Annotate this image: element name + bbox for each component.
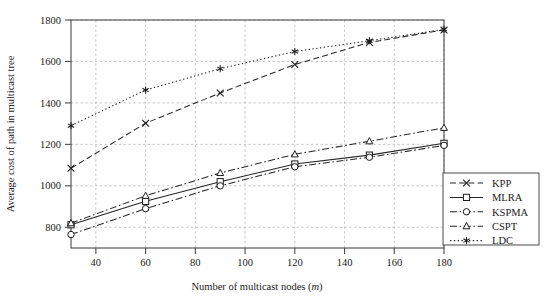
legend-label-ldc: LDC xyxy=(492,235,513,246)
y-axis-ticks xyxy=(65,20,71,227)
data-point-kspma-150 xyxy=(366,154,372,160)
data-point-kspma-60 xyxy=(142,205,148,211)
legend-marker-kspma xyxy=(463,209,469,215)
y-axis-title: Average cost of path in multicast tree xyxy=(5,55,16,212)
x-tick-label: 80 xyxy=(190,257,201,268)
legend-label-mlra: MLRA xyxy=(492,192,523,203)
x-tick-label: 180 xyxy=(436,257,452,268)
x-axis-title-paren: ) xyxy=(319,281,323,293)
x-tick-label: 160 xyxy=(386,257,402,268)
data-point-mlra-60 xyxy=(143,198,149,204)
y-axis-tick-labels: 80010001200140016001800 xyxy=(40,15,61,233)
x-tick-label: 140 xyxy=(337,257,353,268)
legend-label-kpp: KPP xyxy=(492,178,511,189)
y-tick-label: 1600 xyxy=(40,56,61,67)
data-point-kspma-90 xyxy=(217,183,223,189)
chart-page: 406080100120140160180 800100012001400160… xyxy=(0,0,545,301)
x-tick-label: 100 xyxy=(237,257,253,268)
legend-label-kspma: KSPMA xyxy=(492,207,529,218)
x-axis-ticks xyxy=(96,248,444,254)
legend-label-cspt: CSPT xyxy=(492,221,518,232)
x-tick-label: 60 xyxy=(140,257,151,268)
y-tick-label: 1000 xyxy=(40,180,61,191)
legend-marker-mlra xyxy=(463,194,469,200)
x-tick-label: 120 xyxy=(287,257,303,268)
y-tick-label: 1200 xyxy=(40,139,61,150)
data-point-kspma-120 xyxy=(292,164,298,170)
legend: KPPMLRAKSPMACSPTLDC xyxy=(443,173,539,246)
x-tick-label: 40 xyxy=(91,257,102,268)
x-axis-title-text: Number of multicast nodes ( xyxy=(191,281,312,293)
y-tick-label: 1800 xyxy=(40,15,61,26)
y-tick-label: 800 xyxy=(45,222,61,233)
multicast-cost-line-chart: 406080100120140160180 800100012001400160… xyxy=(0,0,545,301)
x-axis-tick-labels: 406080100120140160180 xyxy=(91,257,452,268)
x-axis-title: Number of multicast nodes (m) xyxy=(191,281,323,293)
y-tick-label: 1400 xyxy=(40,98,61,109)
data-point-kspma-180 xyxy=(441,142,447,148)
data-point-kspma-30 xyxy=(68,231,74,237)
